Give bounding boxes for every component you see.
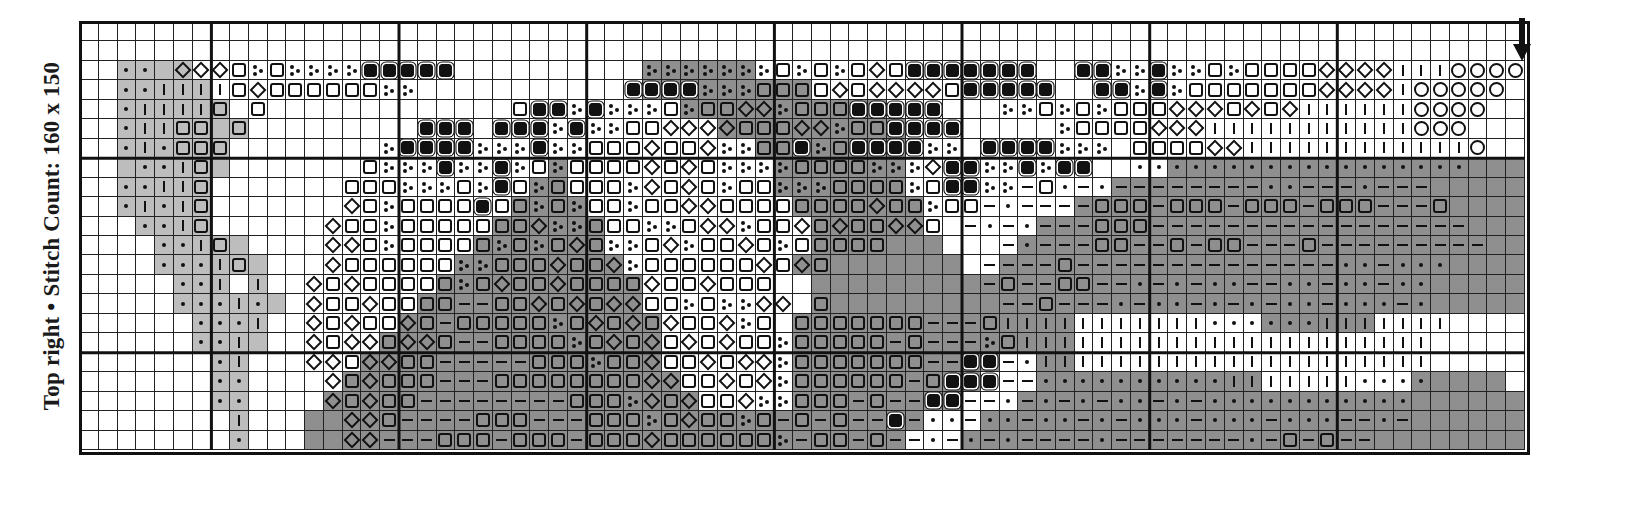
stitch-cell (1450, 119, 1469, 138)
stitch-cell (1150, 217, 1169, 236)
square-outline-symbol-icon (513, 258, 527, 272)
stitch-cell (1225, 275, 1244, 294)
stitch-cell (699, 255, 718, 274)
square-outline-symbol-icon (382, 277, 396, 291)
square-filled-symbol-icon (1021, 64, 1034, 77)
stitch-cell (361, 333, 380, 352)
stitch-cell (193, 255, 212, 274)
stitch-cell (418, 158, 437, 177)
diamond-symbol-icon (718, 217, 735, 234)
stitch-cell (643, 372, 662, 391)
dot-symbol-icon (969, 438, 973, 442)
stitch-cell (361, 275, 380, 294)
vertical-bar-symbol-icon (1383, 104, 1385, 115)
square-outline-symbol-icon (795, 83, 809, 97)
chart-orientation-label: Top right • Stitch Count: 160 x 150 (39, 62, 65, 410)
stitch-cell (380, 80, 399, 99)
dash-symbol-icon (909, 380, 920, 382)
diamond-symbol-icon (343, 276, 360, 293)
stitch-cell (1075, 294, 1094, 313)
square-outline-symbol-icon (1133, 219, 1147, 233)
stitch-cell (136, 119, 155, 138)
square-outline-symbol-icon (232, 63, 246, 77)
stitch-cell (418, 80, 437, 99)
vertical-bar-symbol-icon (1364, 337, 1366, 348)
vertical-bar-symbol-icon (1402, 337, 1404, 348)
square-outline-symbol-icon (194, 160, 208, 174)
stitch-cell (230, 333, 249, 352)
dot-symbol-icon (218, 340, 222, 344)
vertical-bar-symbol-icon (1214, 356, 1216, 367)
stitch-cell (1206, 333, 1225, 352)
stitch-cell (1131, 294, 1150, 313)
stitch-cell (1394, 217, 1413, 236)
square-filled-symbol-icon (495, 161, 508, 174)
stitch-cell (624, 353, 643, 372)
vertical-bar-symbol-icon (1383, 337, 1385, 348)
dot-symbol-icon (162, 165, 166, 169)
stitch-cell (1469, 119, 1488, 138)
vertical-bar-symbol-icon (1364, 104, 1366, 115)
stitch-cell (549, 80, 568, 99)
diamond-symbol-icon (1338, 62, 1355, 79)
vertical-bar-symbol-icon (163, 123, 165, 134)
diamond-symbol-icon (643, 373, 660, 390)
stitch-cell (962, 197, 981, 216)
dash-symbol-icon (1003, 303, 1014, 305)
stitch-cell (624, 197, 643, 216)
dash-symbol-icon (477, 380, 488, 382)
vertical-bar-symbol-icon (1270, 123, 1272, 134)
square-outline-symbol-icon (814, 199, 828, 213)
stitch-cell (981, 255, 1000, 274)
stitch-cell (136, 431, 155, 450)
stitch-cell (230, 22, 249, 41)
square-outline-symbol-icon (345, 258, 359, 272)
dot-symbol-icon (199, 302, 203, 306)
stitch-cell (1150, 255, 1169, 274)
stitch-cell (1506, 353, 1525, 372)
stitch-cell (624, 139, 643, 158)
stitch-cell (1150, 392, 1169, 411)
stitch-cell (1037, 314, 1056, 333)
diamond-symbol-icon (925, 81, 942, 98)
vertical-bar-symbol-icon (1308, 142, 1310, 153)
square-outline-symbol-icon (814, 355, 828, 369)
square-outline-symbol-icon (194, 121, 208, 135)
square-outline-symbol-icon (776, 141, 790, 155)
stitch-cell (437, 333, 456, 352)
stitch-cell (906, 431, 925, 450)
stitch-cell (718, 236, 737, 255)
stitch-cell (587, 217, 606, 236)
square-outline-symbol-icon (401, 258, 415, 272)
stitch-cell (1206, 275, 1225, 294)
stitch-cell (343, 119, 362, 138)
stitch-cell (324, 139, 343, 158)
square-outline-symbol-icon (833, 413, 847, 427)
stitch-cell (943, 411, 962, 430)
square-outline-symbol-icon (1114, 102, 1128, 116)
dash-symbol-icon (1040, 244, 1051, 246)
dash-symbol-icon (1134, 264, 1145, 266)
stitch-cell (1206, 80, 1225, 99)
three-dots-symbol-icon (1096, 142, 1108, 154)
stitch-cell (361, 392, 380, 411)
square-outline-symbol-icon (814, 297, 828, 311)
dot-symbol-icon (218, 302, 222, 306)
stitch-cell (943, 236, 962, 255)
square-filled-symbol-icon (420, 122, 433, 135)
square-outline-symbol-icon (345, 83, 359, 97)
three-dots-symbol-icon (683, 298, 695, 310)
stitch-cell (568, 392, 587, 411)
stitch-cell (774, 22, 793, 41)
stitch-cell (1487, 392, 1506, 411)
stitch-cell (1375, 61, 1394, 80)
stitch-cell (380, 392, 399, 411)
stitch-cell (1093, 100, 1112, 119)
three-dots-symbol-icon (1228, 64, 1240, 76)
vertical-bar-symbol-icon (1120, 318, 1122, 329)
stitch-cell (605, 61, 624, 80)
stitch-cell (1112, 61, 1131, 80)
diamond-symbol-icon (306, 353, 323, 370)
stitch-cell (474, 178, 493, 197)
square-outline-symbol-icon (889, 199, 903, 213)
